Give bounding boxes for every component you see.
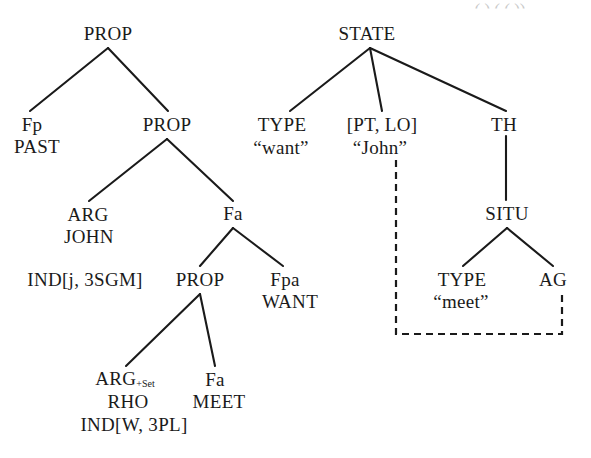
tree-edge-fa-1-to-prop-3	[200, 228, 233, 266]
tree-node-pt-lo: [PT, LO]	[347, 115, 418, 134]
tree-node-meet: MEET	[193, 392, 246, 411]
tree-node-john-q: “John”	[353, 138, 408, 157]
tree-edge-prop-3-to-fa-2	[200, 294, 215, 366]
tree-node-meet-q: “meet”	[433, 292, 489, 311]
tree-node-rho: RHO	[107, 392, 148, 411]
tree-node-th: TH	[491, 115, 517, 134]
tree-node-ag: AG	[539, 270, 567, 289]
tree-node-state: STATE	[339, 24, 396, 43]
tree-edge-situ-to-type-2	[463, 228, 507, 266]
tree-node-situ: SITU	[485, 204, 528, 223]
tree-edge-prop-2-to-fa-1	[167, 139, 233, 201]
cut-off-top-text: ( ) ( ( ))	[475, 0, 526, 9]
tree-node-arg-2-subscript: +Set	[136, 378, 154, 389]
tree-edge-prop-root-to-fp	[30, 48, 108, 111]
tree-node-prop-3: PROP	[176, 270, 225, 289]
tree-node-prop-root: PROP	[84, 24, 133, 43]
tree-diagram: ( ) ( ( )) PROPFpPASTPROPARGJOHNIND[j, 3…	[0, 0, 591, 458]
tree-node-john: JOHN	[64, 227, 114, 246]
tree-edge-state-to-th	[370, 48, 506, 111]
tree-node-arg-2: ARG+Set	[95, 369, 154, 390]
tree-node-type-2: TYPE	[438, 270, 487, 289]
tree-edge-state-to-pt-lo	[370, 48, 382, 111]
tree-edge-prop-root-to-prop-2	[108, 48, 168, 111]
tree-node-arg-2-base: ARG	[95, 368, 136, 389]
tree-node-want-q: “want”	[253, 138, 309, 157]
tree-edge-fa-1-to-fpa	[233, 228, 283, 266]
tree-node-fa-2: Fa	[205, 370, 225, 389]
tree-node-fp: Fp	[22, 115, 43, 134]
tree-node-type-1: TYPE	[258, 115, 307, 134]
tree-edge-prop-2-to-arg-1	[89, 139, 167, 201]
tree-node-want: WANT	[262, 292, 318, 311]
tree-node-fa-1: Fa	[223, 204, 243, 223]
tree-node-fpa: Fpa	[270, 270, 299, 289]
tree-node-arg-1: ARG	[67, 205, 108, 224]
tree-node-past: PAST	[14, 137, 60, 156]
tree-edge-prop-3-to-arg-2	[126, 294, 200, 366]
tree-node-ind-j: IND[j, 3SGM]	[27, 270, 143, 289]
tree-node-prop-2: PROP	[143, 115, 192, 134]
tree-edge-state-to-type-1	[290, 48, 370, 111]
tree-node-ind-w: IND[W, 3PL]	[80, 415, 187, 434]
right-tree-edges	[290, 48, 553, 266]
tree-edge-situ-to-ag	[507, 228, 553, 266]
